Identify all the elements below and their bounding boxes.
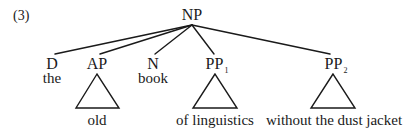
node-pp1-subscript: 1 <box>224 66 228 75</box>
node-pp1-label: PP <box>206 55 224 72</box>
triangle-pp1 <box>193 74 237 108</box>
branch-np-d <box>55 25 192 54</box>
word-without-the-dust-jacket: without the dust jacket <box>266 113 402 128</box>
node-pp2: PP2 <box>325 56 348 75</box>
word-of-linguistics: of linguistics <box>176 113 254 128</box>
node-pp1: PP1 <box>206 56 229 75</box>
node-ap: AP <box>87 56 107 72</box>
node-pp2-label: PP <box>325 55 343 72</box>
triangle-ap <box>76 74 119 108</box>
word-the: the <box>43 71 61 86</box>
triangle-pp2 <box>311 74 355 108</box>
node-np: NP <box>182 7 202 23</box>
node-pp2-subscript: 2 <box>343 66 347 75</box>
syntax-tree-diagram: (3) NP D the AP old N book PP1 of lingui… <box>0 0 414 133</box>
example-number: (3) <box>13 9 29 23</box>
branch-np-ap <box>100 25 192 54</box>
word-book: book <box>138 71 168 86</box>
branch-np-pp2 <box>192 25 330 54</box>
word-old: old <box>87 113 106 128</box>
